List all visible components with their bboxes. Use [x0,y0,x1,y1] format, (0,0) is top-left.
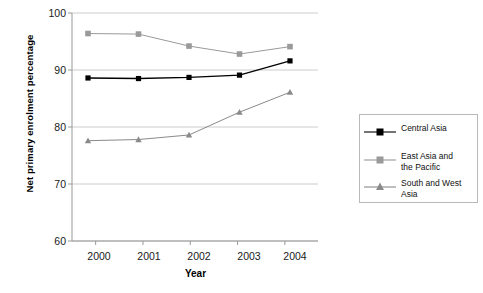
data-series-layer [85,31,293,144]
legend-key-square-icon [360,152,400,164]
data-point-marker [85,31,91,37]
legend-label-continued: the Pacific [400,162,453,173]
legend-label: South and West [400,178,461,189]
data-point-marker [237,73,242,78]
data-series [85,31,293,57]
data-point-marker [85,75,90,80]
data-point-marker [186,75,191,80]
data-point-marker [236,109,242,115]
legend-item-south-and-west-asia[interactable]: South and West Asia [360,178,479,199]
legend-label-continued: Asia [400,189,461,200]
legend-key-triangle-icon [360,179,400,191]
axis-ticks [68,13,285,245]
legend-key-diamond-icon [360,124,400,136]
chart-legend: Central Asia East Asia and the Pacific [359,114,478,203]
data-point-marker [287,89,293,95]
legend-item-central-asia[interactable]: Central Asia [360,123,479,136]
data-point-marker [287,44,293,50]
data-point-marker [186,43,192,49]
legend-label: East Asia and [400,151,453,162]
data-point-marker [136,31,142,37]
legend-item-east-asia-and-the-pacific[interactable]: East Asia and the Pacific [360,151,479,172]
legend-label-group: South and West Asia [400,178,461,199]
data-point-marker [287,58,292,63]
chart-figure: Net primary enrolment percentage 100 90 … [0,0,483,293]
data-point-marker [237,51,243,57]
legend-label-group: East Asia and the Pacific [400,151,453,172]
legend-label: Central Asia [400,123,447,134]
data-point-marker [136,76,141,81]
data-series [85,89,293,143]
data-point-marker [186,132,192,138]
